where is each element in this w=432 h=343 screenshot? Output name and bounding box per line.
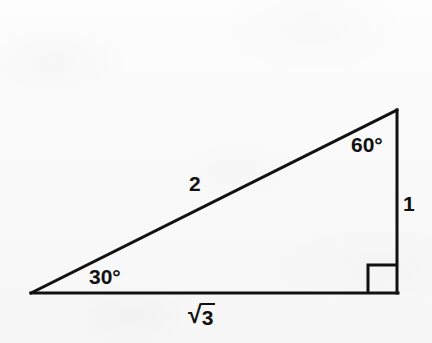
triangle-drawing	[0, 0, 432, 343]
radicand-value: 3	[201, 303, 216, 329]
right-angle-marker-icon	[368, 265, 396, 292]
triangle-hypotenuse-line	[31, 110, 397, 293]
side-label-hypotenuse: 2	[189, 173, 201, 194]
side-label-vertical: 1	[403, 193, 415, 214]
side-label-base: √ 3	[188, 303, 215, 329]
angle-label-apex: 60°	[351, 134, 383, 155]
angle-label-bottom-left: 30°	[89, 266, 121, 287]
radical-sign-icon: √	[188, 303, 202, 327]
geometry-figure: 60° 1 2 30° √ 3	[0, 0, 432, 343]
